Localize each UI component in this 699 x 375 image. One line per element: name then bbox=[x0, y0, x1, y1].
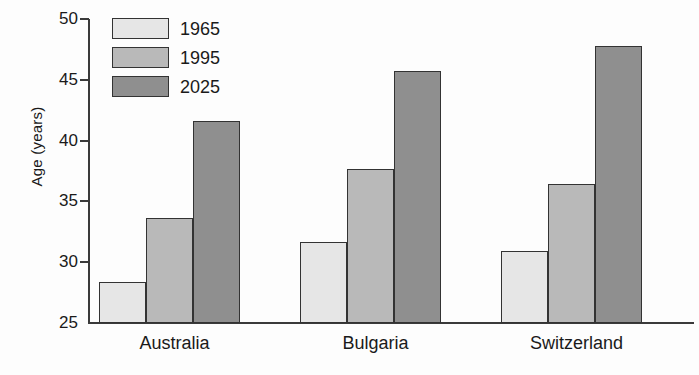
bar bbox=[99, 282, 146, 323]
x-axis-category-label: Bulgaria bbox=[260, 332, 491, 354]
y-axis-tick-mark bbox=[80, 200, 89, 202]
bar bbox=[595, 46, 642, 323]
y-axis-tick-labels: 253035404550 bbox=[44, 0, 78, 375]
bar bbox=[347, 169, 394, 323]
legend-swatch-icon bbox=[112, 76, 169, 97]
y-axis-tick-label: 45 bbox=[44, 71, 78, 88]
bar bbox=[394, 71, 441, 323]
legend-swatch-icon bbox=[112, 47, 169, 68]
legend-item: 1965 bbox=[112, 16, 262, 41]
bar bbox=[146, 218, 193, 323]
legend-label: 1965 bbox=[180, 20, 220, 38]
y-axis-tick-label: 40 bbox=[44, 132, 78, 149]
bar bbox=[300, 242, 347, 323]
legend: 196519952025 bbox=[112, 16, 262, 103]
y-axis-tick-mark bbox=[80, 18, 89, 20]
bar bbox=[548, 184, 595, 323]
legend-label: 2025 bbox=[180, 78, 220, 96]
y-axis-title: Age (years) bbox=[28, 47, 45, 247]
y-axis-tick-label: 30 bbox=[44, 253, 78, 270]
y-axis-tick-mark bbox=[80, 261, 89, 263]
y-axis-tick-label: 50 bbox=[44, 10, 78, 27]
legend-item: 1995 bbox=[112, 45, 262, 70]
y-axis-tick-mark bbox=[80, 140, 89, 142]
x-axis-category-label: Australia bbox=[59, 332, 290, 354]
legend-item: 2025 bbox=[112, 74, 262, 99]
x-axis-category-label: Switzerland bbox=[461, 332, 692, 354]
bar bbox=[501, 251, 548, 323]
y-axis-tick-label: 25 bbox=[44, 314, 78, 331]
y-axis-tick-mark bbox=[80, 79, 89, 81]
legend-swatch-icon bbox=[112, 18, 169, 39]
y-axis-tick-label: 35 bbox=[44, 192, 78, 209]
legend-label: 1995 bbox=[180, 49, 220, 67]
bar bbox=[193, 121, 240, 323]
bar-chart: Age (years) 253035404550 AustraliaBulgar… bbox=[0, 0, 699, 375]
